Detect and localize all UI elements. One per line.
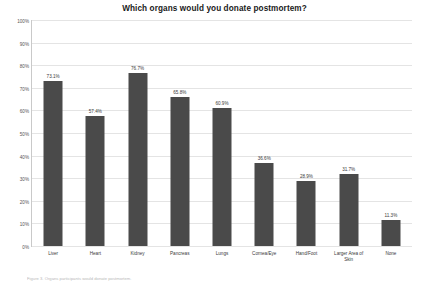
bar-group: 65.8%Pancreas — [159, 20, 201, 246]
y-axis-tick-label: 90% — [20, 41, 29, 46]
y-axis-tick-label: 50% — [20, 132, 29, 137]
figure-caption: Figure 3. Organs participants would dona… — [27, 276, 267, 282]
bar-group: 31.7%Larger Area of Skin — [328, 20, 370, 246]
y-axis-tick-label: 100% — [17, 19, 29, 24]
x-axis-tick-label: Kidney — [117, 251, 159, 257]
bar[interactable] — [86, 116, 105, 246]
gridline: 0% — [32, 246, 412, 247]
bar-value-label: 28.9% — [300, 174, 313, 179]
y-axis-tick-label: 40% — [20, 154, 29, 159]
chart-title: Which organs would you donate postmortem… — [0, 4, 429, 13]
bar-group: 36.6%Cornea/Eye — [243, 20, 285, 246]
bar-value-label: 73.1% — [47, 74, 60, 79]
bar-group: 11.3%None — [370, 20, 412, 246]
bar-group: 73.1%Liver — [32, 20, 74, 246]
x-axis-tick-label: Lungs — [201, 251, 243, 257]
bar-value-label: 57.4% — [89, 109, 102, 114]
bar[interactable] — [381, 220, 400, 246]
x-axis-tick-label: Pancreas — [159, 251, 201, 257]
bar[interactable] — [44, 81, 63, 246]
bar-value-label: 76.7% — [131, 66, 144, 71]
bar-value-label: 11.3% — [385, 213, 398, 218]
bar-group: 76.7%Kidney — [116, 20, 158, 246]
bar-value-label: 31.7% — [342, 167, 355, 172]
bar-group: 28.9%Hand/Foot — [285, 20, 327, 246]
bar-value-label: 36.6% — [258, 156, 271, 161]
bar[interactable] — [212, 108, 231, 246]
y-axis-tick-label: 60% — [20, 109, 29, 114]
y-axis-tick-label: 0% — [22, 245, 29, 250]
bars-layer: 73.1%Liver57.4%Heart76.7%Kidney65.8%Panc… — [32, 20, 412, 246]
bar[interactable] — [297, 181, 316, 246]
bar-value-label: 65.8% — [173, 90, 186, 95]
bar[interactable] — [339, 174, 358, 246]
bar[interactable] — [170, 97, 189, 246]
x-axis-tick-label: Heart — [74, 251, 116, 257]
y-axis-tick-label: 30% — [20, 177, 29, 182]
bar[interactable] — [128, 73, 147, 246]
bar[interactable] — [255, 163, 274, 246]
x-axis-tick-label: None — [370, 251, 412, 257]
x-axis-tick-label: Hand/Foot — [285, 251, 327, 257]
y-axis-tick-label: 80% — [20, 64, 29, 69]
y-axis-tick-label: 70% — [20, 86, 29, 91]
bar-chart-figure: Which organs would you donate postmortem… — [0, 0, 429, 282]
bar-value-label: 60.9% — [215, 101, 228, 106]
y-axis-tick-label: 10% — [20, 222, 29, 227]
bar-group: 57.4%Heart — [74, 20, 116, 246]
plot-area: 100%90%80%70%60%50%40%30%20%10%0% 73.1%L… — [31, 20, 412, 247]
x-axis-tick-label: Cornea/Eye — [243, 251, 285, 257]
y-axis-tick-label: 20% — [20, 199, 29, 204]
x-axis-tick-label: Larger Area of Skin — [328, 251, 370, 262]
x-axis-tick-label: Liver — [32, 251, 74, 257]
bar-group: 60.9%Lungs — [201, 20, 243, 246]
